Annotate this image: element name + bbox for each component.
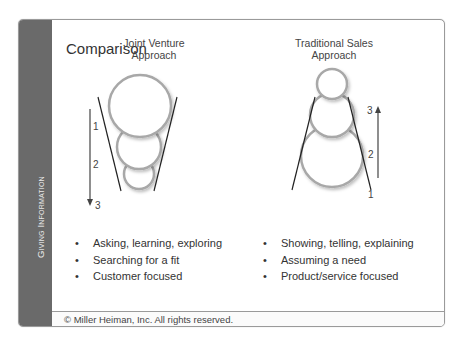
- joint-venture-bullets: Asking, learning, exploring Searching fo…: [73, 235, 222, 285]
- step-2: 2: [93, 159, 99, 170]
- bullet-item: Asking, learning, exploring: [73, 235, 222, 252]
- bullet-item: Product/service focused: [261, 268, 414, 285]
- step-1: 1: [368, 189, 374, 200]
- copyright-text: © Miller Heiman, Inc. All rights reserve…: [64, 314, 233, 325]
- traditional-sales-bullets: Showing, telling, explaining Assuming a …: [261, 235, 414, 285]
- step-1: 1: [93, 121, 99, 132]
- footer: © Miller Heiman, Inc. All rights reserve…: [52, 311, 444, 327]
- joint-venture-funnel: 1 2 3: [87, 75, 177, 211]
- up-arrow-icon: [375, 106, 381, 113]
- traditional-sales-funnel: 3 2 1: [292, 69, 381, 200]
- small-circle: [317, 69, 347, 99]
- bullet-item: Searching for a fit: [73, 252, 222, 269]
- step-3: 3: [367, 105, 373, 116]
- bullet-item: Customer focused: [73, 268, 222, 285]
- down-arrow-icon: [87, 199, 93, 206]
- large-circle: [109, 75, 171, 137]
- slide-card: Giving Information Comparison Joint Vent…: [18, 19, 445, 327]
- bullet-item: Showing, telling, explaining: [261, 235, 414, 252]
- bullet-item: Assuming a need: [261, 252, 414, 269]
- step-3: 3: [95, 200, 101, 211]
- step-2: 2: [368, 149, 374, 160]
